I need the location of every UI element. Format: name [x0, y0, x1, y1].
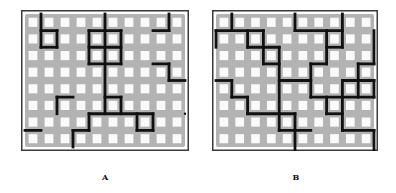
grid-cell: [141, 84, 150, 93]
grid-cell: [141, 117, 150, 126]
grid-cell: [235, 101, 244, 110]
grid-cell: [29, 34, 38, 43]
grid-cell: [157, 134, 166, 143]
grid-cell: [314, 51, 323, 60]
grid-cell: [61, 117, 70, 126]
grid-cell: [299, 84, 308, 93]
panel-b-label: B: [293, 172, 300, 182]
grid-cell: [93, 117, 102, 126]
grid-cell: [29, 51, 38, 60]
grid-cell: [61, 101, 70, 110]
grid-cell: [314, 34, 323, 43]
grid-cell: [235, 134, 244, 143]
grid-cell: [235, 84, 244, 93]
grid-cell: [157, 84, 166, 93]
grid-cell: [235, 18, 244, 27]
grid-cell: [267, 134, 276, 143]
grid-cell: [220, 134, 229, 143]
grid-cell: [141, 18, 150, 27]
grid-cell: [141, 134, 150, 143]
grid-cell: [77, 18, 86, 27]
grid-cell: [362, 84, 371, 93]
grid-cell: [141, 68, 150, 77]
grid-cell: [109, 101, 118, 110]
grid-cell: [346, 117, 355, 126]
grid-cell: [330, 68, 339, 77]
grid-cell: [267, 34, 276, 43]
grid-cell: [267, 51, 276, 60]
grid-cell: [220, 68, 229, 77]
grid-cell: [61, 34, 70, 43]
grid-cell: [362, 18, 371, 27]
grid-cell: [330, 34, 339, 43]
grid-cell: [29, 117, 38, 126]
grid-cell: [45, 101, 54, 110]
grid-cell: [330, 117, 339, 126]
grid-cell: [29, 84, 38, 93]
grid-cell: [109, 134, 118, 143]
grid-cell: [251, 117, 260, 126]
grid-cell: [235, 34, 244, 43]
grid-cell: [220, 18, 229, 27]
grid-cell: [314, 18, 323, 27]
grid-cell: [125, 68, 134, 77]
grid-cell: [173, 101, 182, 110]
grid-cell: [283, 84, 292, 93]
grid-cell: [141, 34, 150, 43]
grid-cell: [220, 34, 229, 43]
grid-cell: [125, 34, 134, 43]
grid-cell: [93, 68, 102, 77]
grid-cell: [157, 51, 166, 60]
grid-cell: [173, 84, 182, 93]
grid-cell: [77, 134, 86, 143]
grid-cell: [283, 134, 292, 143]
panel-a-label: A: [102, 172, 108, 182]
grid-cell: [267, 84, 276, 93]
grid-cell: [109, 117, 118, 126]
grid-cell: [330, 18, 339, 27]
grid-cell: [235, 68, 244, 77]
grid-cell: [157, 68, 166, 77]
grid-cell: [346, 101, 355, 110]
grid-cell: [109, 51, 118, 60]
grid-cell: [330, 51, 339, 60]
grid-cell: [220, 84, 229, 93]
grid-cell: [93, 51, 102, 60]
grid-cell: [330, 101, 339, 110]
grid-cell: [45, 134, 54, 143]
grid-cell: [314, 101, 323, 110]
grid-cell: [362, 34, 371, 43]
grid-cell: [251, 84, 260, 93]
grid-cell: [235, 117, 244, 126]
grid-cell: [109, 84, 118, 93]
grid-cell: [77, 101, 86, 110]
grid-cell: [109, 18, 118, 27]
grid-cell: [93, 84, 102, 93]
grid-cell: [362, 51, 371, 60]
grid-cell: [173, 117, 182, 126]
grid-cell: [77, 68, 86, 77]
grid-cell: [109, 68, 118, 77]
grid-cell: [93, 134, 102, 143]
grid-cell: [283, 51, 292, 60]
grid-cell: [299, 134, 308, 143]
grid-cell: [93, 18, 102, 27]
grid-cell: [299, 68, 308, 77]
grid-cell: [77, 84, 86, 93]
panel-a: [21, 10, 189, 151]
grid-cell: [77, 117, 86, 126]
grid-cell: [61, 134, 70, 143]
grid-cell: [93, 101, 102, 110]
grid-cell: [330, 134, 339, 143]
grid-cell: [314, 68, 323, 77]
grid-cell: [283, 117, 292, 126]
grid-cell: [77, 51, 86, 60]
grid-cell: [362, 117, 371, 126]
grid-cell: [251, 18, 260, 27]
dot-marker: [184, 113, 186, 115]
grid-cell: [45, 34, 54, 43]
grid-cell: [29, 101, 38, 110]
grid-cell: [109, 34, 118, 43]
grid-cell: [299, 51, 308, 60]
grid-cell: [346, 68, 355, 77]
